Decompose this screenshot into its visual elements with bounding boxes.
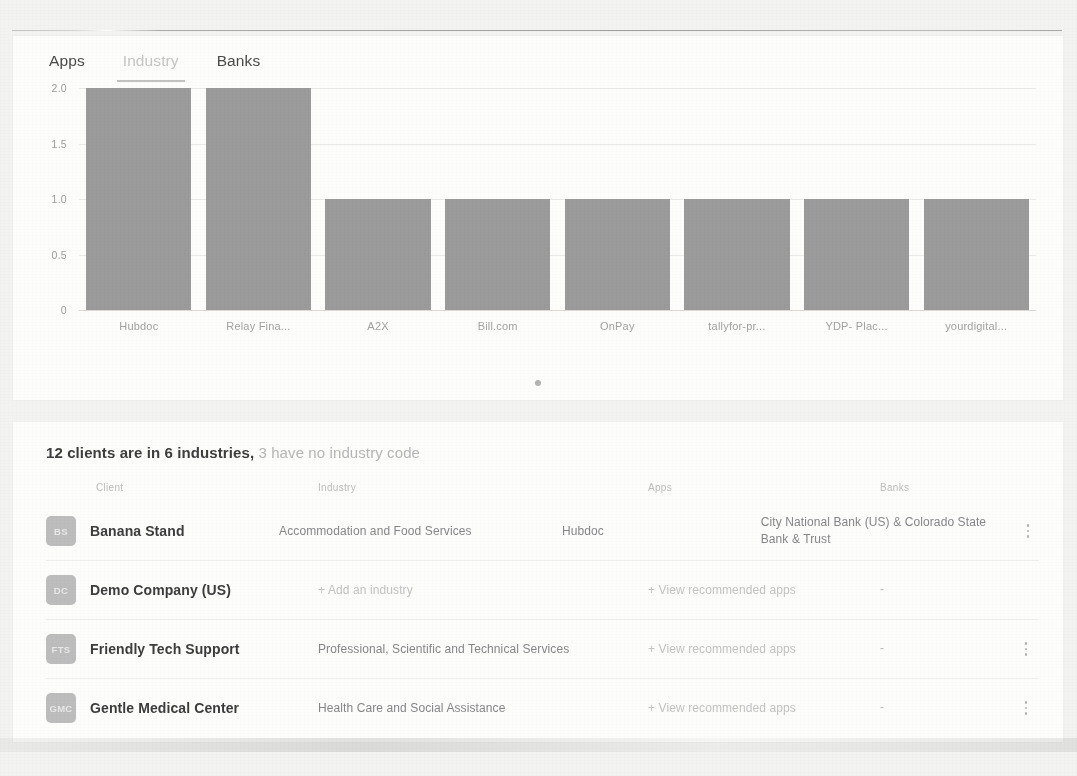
column-header-client[interactable]: Client bbox=[46, 482, 318, 493]
carousel-dot[interactable] bbox=[535, 380, 541, 386]
avatar: GMC bbox=[46, 693, 76, 723]
clipped-top-text bbox=[28, 0, 728, 5]
top-divider bbox=[12, 30, 1062, 31]
bar-relay-fina[interactable] bbox=[206, 88, 311, 310]
bar-slot bbox=[558, 88, 678, 310]
cell-client: DCDemo Company (US) bbox=[46, 575, 318, 605]
view-recommended-apps-link[interactable]: + View recommended apps bbox=[648, 583, 880, 597]
cell-menu bbox=[1017, 522, 1039, 540]
table-header-row: Client Industry Apps Banks bbox=[46, 482, 1039, 493]
cell-banks: - bbox=[880, 581, 1013, 598]
x-axis-label: tallyfor-pr... bbox=[677, 320, 797, 332]
bar-chart: 2.01.51.00.50 HubdocRelay Fina...A2XBill… bbox=[41, 88, 1036, 358]
y-axis-tick: 1.5 bbox=[52, 138, 68, 150]
column-header-menu bbox=[1013, 482, 1039, 493]
carousel-dots bbox=[13, 380, 1063, 386]
x-axis-label: Relay Fina... bbox=[199, 320, 319, 332]
column-header-apps[interactable]: Apps bbox=[648, 482, 880, 493]
cell-banks: - bbox=[880, 699, 1013, 716]
client-name[interactable]: Demo Company (US) bbox=[90, 582, 231, 598]
table-row[interactable]: BSBanana StandAccommodation and Food Ser… bbox=[46, 502, 1039, 561]
x-axis-labels: HubdocRelay Fina...A2XBill.comOnPaytally… bbox=[79, 320, 1036, 332]
y-axis-tick: 2.0 bbox=[52, 82, 68, 94]
bar-yourdigital[interactable] bbox=[924, 199, 1029, 310]
bar-slot bbox=[797, 88, 917, 310]
avatar: BS bbox=[46, 516, 76, 546]
avatar: FTS bbox=[46, 634, 76, 664]
y-axis-tick: 1.0 bbox=[52, 193, 68, 205]
tab-industry[interactable]: Industry bbox=[117, 48, 185, 82]
view-recommended-apps-link[interactable]: + View recommended apps bbox=[648, 701, 880, 715]
app-screen: AppsIndustryBanks 2.01.51.00.50 HubdocRe… bbox=[0, 0, 1077, 776]
client-name[interactable]: Friendly Tech Support bbox=[90, 641, 240, 657]
tab-banks[interactable]: Banks bbox=[211, 48, 267, 82]
table-row[interactable]: FTSFriendly Tech SupportProfessional, Sc… bbox=[46, 620, 1039, 679]
cell-menu bbox=[1013, 699, 1039, 717]
bar-slot bbox=[438, 88, 558, 310]
bar-hubdoc[interactable] bbox=[86, 88, 191, 310]
y-axis-tick: 0.5 bbox=[52, 249, 68, 261]
bar-slot bbox=[916, 88, 1036, 310]
gridline bbox=[79, 310, 1036, 311]
y-axis-tick: 0 bbox=[61, 304, 67, 316]
cell-menu bbox=[1013, 581, 1039, 599]
column-header-industry[interactable]: Industry bbox=[318, 482, 648, 493]
cell-client: BSBanana Stand bbox=[46, 516, 279, 546]
summary-dim: 3 have no industry code bbox=[254, 444, 420, 461]
summary-line: 12 clients are in 6 industries, 3 have n… bbox=[46, 444, 420, 461]
table-row[interactable]: GMCGentle Medical CenterHealth Care and … bbox=[46, 679, 1039, 737]
summary-strong: 12 clients are in 6 industries, bbox=[46, 444, 254, 461]
bar-slot bbox=[677, 88, 797, 310]
bar-slot bbox=[199, 88, 319, 310]
x-axis-label: YDP- Plac... bbox=[797, 320, 917, 332]
x-axis-label: Hubdoc bbox=[79, 320, 199, 332]
bar-bill-com[interactable] bbox=[445, 199, 550, 310]
clients-table-card: 12 clients are in 6 industries, 3 have n… bbox=[13, 422, 1063, 742]
client-name[interactable]: Banana Stand bbox=[90, 523, 185, 539]
cell-industry: Professional, Scientific and Technical S… bbox=[318, 642, 648, 656]
y-axis: 2.01.51.00.50 bbox=[41, 88, 75, 310]
cell-banks: - bbox=[880, 640, 1013, 657]
column-header-banks[interactable]: Banks bbox=[880, 482, 1013, 493]
x-axis-label: A2X bbox=[318, 320, 438, 332]
kebab-menu-icon[interactable] bbox=[1018, 640, 1034, 658]
cell-industry: Accommodation and Food Services bbox=[279, 524, 562, 538]
bar-slot bbox=[318, 88, 438, 310]
add-industry-link[interactable]: + Add an industry bbox=[318, 583, 648, 597]
table-row[interactable]: DCDemo Company (US)+ Add an industry+ Vi… bbox=[46, 561, 1039, 620]
cell-client: FTSFriendly Tech Support bbox=[46, 634, 318, 664]
cell-menu bbox=[1013, 640, 1039, 658]
view-recommended-apps-link[interactable]: + View recommended apps bbox=[648, 642, 880, 656]
x-axis-label: Bill.com bbox=[438, 320, 558, 332]
cell-industry: Health Care and Social Assistance bbox=[318, 701, 648, 715]
bar-a2x[interactable] bbox=[325, 199, 430, 310]
chart-card: AppsIndustryBanks 2.01.51.00.50 HubdocRe… bbox=[13, 36, 1063, 400]
bar-slot bbox=[79, 88, 199, 310]
kebab-menu-icon[interactable] bbox=[1020, 522, 1036, 540]
cell-banks: City National Bank (US) & Colorado State… bbox=[761, 514, 1017, 549]
bar-onpay[interactable] bbox=[565, 199, 670, 310]
table-body: BSBanana StandAccommodation and Food Ser… bbox=[46, 502, 1039, 742]
tab-apps[interactable]: Apps bbox=[43, 48, 91, 82]
kebab-menu-icon[interactable] bbox=[1018, 699, 1034, 717]
cell-apps: Hubdoc bbox=[562, 524, 761, 538]
chart-tabs: AppsIndustryBanks bbox=[43, 48, 266, 82]
avatar: DC bbox=[46, 575, 76, 605]
x-axis-label: OnPay bbox=[558, 320, 678, 332]
bar-ydp-plac[interactable] bbox=[804, 199, 909, 310]
bar-tallyfor-pr[interactable] bbox=[684, 199, 789, 310]
cell-client: GMCGentle Medical Center bbox=[46, 693, 318, 723]
x-axis-label: yourdigital... bbox=[916, 320, 1036, 332]
chart-bars bbox=[79, 88, 1036, 310]
client-name[interactable]: Gentle Medical Center bbox=[90, 700, 239, 716]
